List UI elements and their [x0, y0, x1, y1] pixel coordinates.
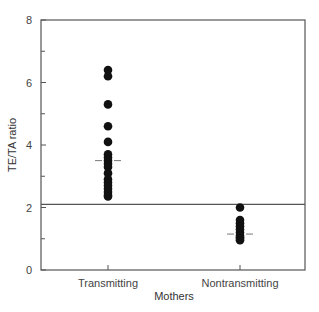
x-axis-title: Mothers [154, 290, 194, 302]
data-point [104, 100, 113, 109]
y-tick-label: 0 [26, 264, 32, 276]
data-point [104, 122, 113, 131]
data-point [236, 236, 245, 245]
plot-border [41, 20, 305, 270]
data-point [104, 138, 113, 147]
plot-frame [41, 20, 305, 270]
data-points [104, 66, 245, 245]
y-axis-title: TE/TA ratio [6, 118, 18, 172]
data-point [104, 72, 113, 81]
median-markers [95, 161, 253, 234]
y-tick-label: 4 [26, 139, 32, 151]
y-tick-label: 8 [26, 14, 32, 26]
y-tick-label: 6 [26, 77, 32, 89]
x-axis: TransmittingNontransmitting [78, 265, 279, 289]
x-tick-label: Nontransmitting [201, 277, 278, 289]
y-axis: 02468 [26, 14, 46, 276]
scatter-chart: 02468 TransmittingNontransmitting TE/TA … [0, 0, 319, 312]
x-tick-label: Transmitting [78, 277, 138, 289]
data-point [236, 203, 245, 212]
data-point [104, 192, 113, 201]
y-tick-label: 2 [26, 202, 32, 214]
